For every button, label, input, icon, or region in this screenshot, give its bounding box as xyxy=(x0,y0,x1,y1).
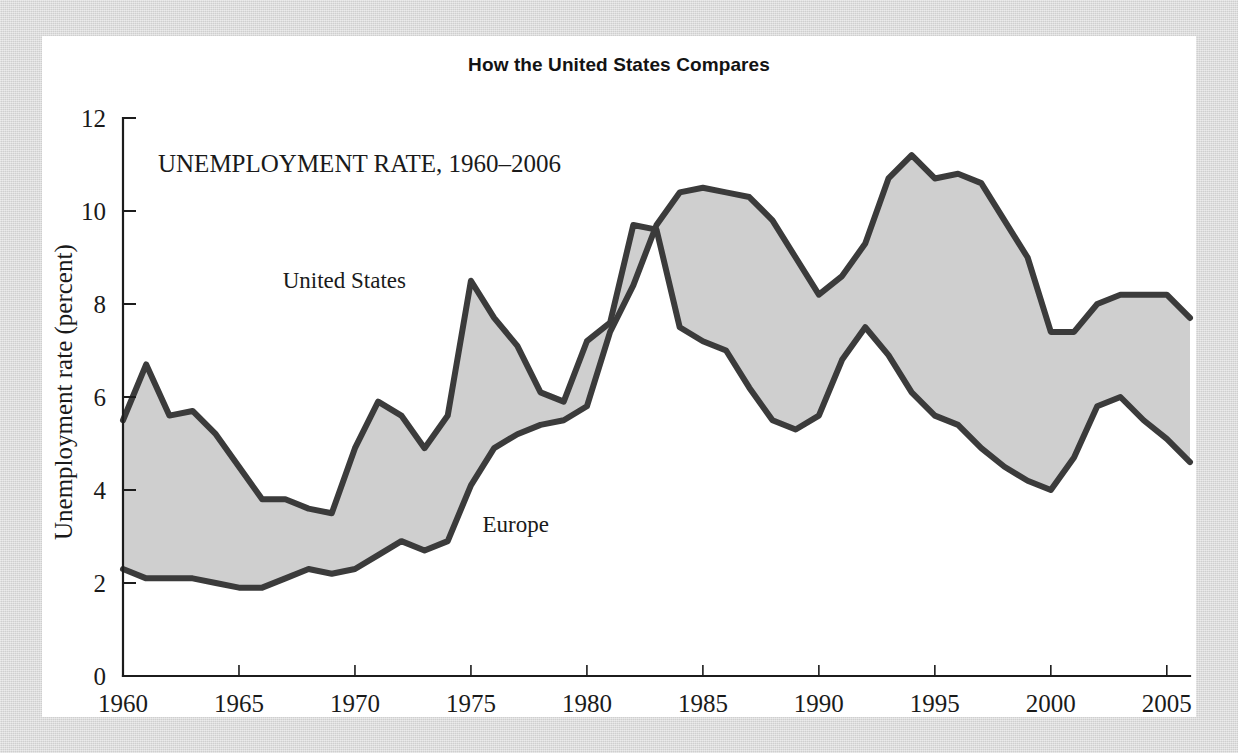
x-tick-label-1970: 1970 xyxy=(330,690,380,717)
x-tick-label-1975: 1975 xyxy=(446,690,496,717)
figure-page: How the United States Compares 024681012… xyxy=(0,0,1238,753)
x-tick-label-1965: 1965 xyxy=(214,690,264,717)
y-tick-label-12: 12 xyxy=(81,105,106,132)
series-label-united-states: United States xyxy=(283,268,406,293)
y-axis-title: Unemployment rate (percent) xyxy=(50,244,78,540)
x-tick-label-2005: 2005 xyxy=(1142,690,1192,717)
y-tick-label-6: 6 xyxy=(94,384,107,411)
x-tick-label-1995: 1995 xyxy=(910,690,960,717)
x-tick-label-1985: 1985 xyxy=(678,690,728,717)
y-tick-label-0: 0 xyxy=(94,663,107,690)
y-tick-label-4: 4 xyxy=(94,477,107,504)
y-tick-label-2: 2 xyxy=(94,570,107,597)
x-tick-label-1960: 1960 xyxy=(98,690,148,717)
y-tick-label-8: 8 xyxy=(94,291,107,318)
series-label-europe: Europe xyxy=(483,512,549,537)
x-tick-label-2000: 2000 xyxy=(1026,690,1076,717)
x-tick-label-1980: 1980 xyxy=(562,690,612,717)
chart-annotation: UNEMPLOYMENT RATE, 1960–2006 xyxy=(158,150,561,177)
x-tick-label-1990: 1990 xyxy=(794,690,844,717)
chart-plot: 0246810121960196519701975198019851990199… xyxy=(0,0,1238,753)
y-tick-label-10: 10 xyxy=(81,198,106,225)
